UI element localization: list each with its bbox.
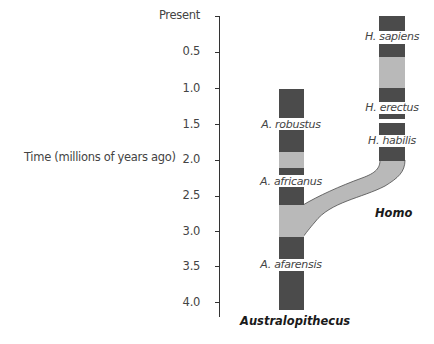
homo-branch-band [303,160,405,237]
species-label-h-sapiens: H. sapiens [357,30,427,43]
time-axis [215,16,220,317]
species-label-a-afarensis: A. afarensis [256,258,326,271]
species-label-h-erectus: H. erectus [357,101,427,114]
species-label-h-habilis: H. habilis [357,134,427,147]
diagram-graphics [0,0,434,344]
genus-label-homo: Homo [375,206,412,220]
species-label-a-africanus: A. africanus [256,175,326,188]
species-label-a-robustus: A. robustus [256,118,326,131]
hominin-evolution-diagram: Time (millions of years ago) Present 0.5… [0,0,434,344]
genus-label-australopithecus: Australopithecus [240,314,350,328]
